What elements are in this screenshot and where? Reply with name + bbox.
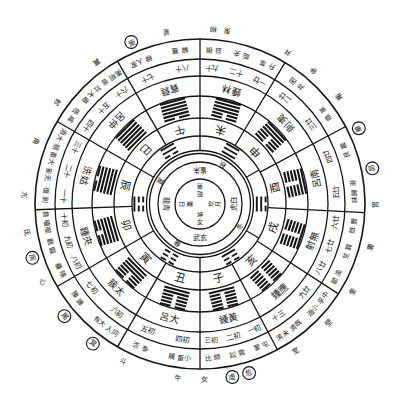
morning-hexagram-name: 小畜 — [177, 353, 192, 363]
lunar-mansion-label: 房 — [28, 253, 39, 262]
pitch-pipe-label: 夷則 — [275, 112, 297, 134]
sector-divider — [268, 208, 365, 213]
earthly-branch-label: 戌 — [265, 221, 281, 235]
lunar-day-label: 廿一 — [250, 74, 267, 89]
lunar-mansion-label: 柳 — [209, 24, 217, 33]
broken-yin-line — [257, 130, 266, 139]
evening-hexagram-name: 訟 — [228, 350, 237, 360]
lunar-mansion-label: 觜 — [334, 92, 345, 103]
lunar-day-label: 初二 — [225, 330, 241, 342]
broken-yin-line — [232, 252, 238, 257]
morning-hexagram-name: 革 — [317, 104, 328, 115]
fu-hexagram-icon — [209, 286, 239, 311]
broken-yin-line — [257, 278, 266, 287]
pitch-pipe-label: 南呂 — [308, 168, 323, 190]
lunar-mansion-label: 胃 — [372, 201, 380, 208]
solid-yang-line — [256, 197, 258, 212]
solid-yang-line — [262, 126, 281, 146]
broken-yin-line — [142, 197, 144, 203]
lunar-mansion-label: 翼 — [91, 56, 101, 67]
guai-hexagram-icon — [93, 165, 118, 195]
lunar-day-label: 廿六 — [330, 214, 341, 230]
inner-trigram-ring — [133, 143, 266, 266]
lunar-day-label: 廿七 — [323, 237, 336, 254]
sector-divider — [260, 127, 346, 173]
lunar-day-label: 初四 — [175, 334, 190, 345]
season-label: 夏 — [155, 176, 165, 186]
morning-hexagram-name: 萃 — [258, 57, 268, 68]
earthly-branch-label: 酉 — [268, 181, 283, 195]
broken-yin-line — [290, 170, 294, 181]
pitch-pipe-label: 大呂 — [158, 310, 180, 326]
center-trigram-labels: 乾男坎月坤女離日 — [178, 182, 222, 226]
broken-yin-line — [296, 184, 300, 195]
lunar-mansion-label: 奎 — [347, 286, 358, 297]
morning-hexagram-name: 隨 — [57, 269, 68, 279]
lunar-mansion-label: 角 — [31, 136, 42, 146]
broken-yin-line — [224, 257, 230, 262]
broken-yin-line — [138, 206, 140, 212]
broken-yin-line — [286, 171, 290, 182]
lunar-mansion-label: 星 — [162, 27, 170, 36]
lunar-mansion-label: 尾 — [59, 311, 70, 321]
lunar-day-label: 初一 — [246, 322, 262, 336]
lunar-day-label: 初十 — [59, 212, 70, 227]
four-symbol-label: 青龍 — [162, 197, 171, 211]
evening-hexagram-name: 大畜 — [46, 151, 59, 167]
morning-hexagram-name: 損 — [205, 45, 213, 54]
evening-hexagram-name: 復 — [41, 186, 51, 194]
lunar-day-label: 十七 — [139, 71, 156, 85]
earthly-branch-label: 丑 — [173, 271, 187, 286]
earthly-branch-label: 午 — [173, 122, 187, 137]
broken-yin-line — [250, 270, 259, 279]
pitch-pipe-label: 仲呂 — [106, 110, 128, 132]
morning-hexagram-name: 巽 — [344, 243, 354, 252]
lunar-mansion-label: 昴 — [368, 164, 377, 172]
morning-hexagram-name: 需 — [238, 348, 247, 358]
solid-yang-line — [133, 197, 135, 212]
morning-hexagram-name: 屯 — [260, 338, 270, 349]
evening-hexagram-name: 蒙 — [252, 342, 262, 353]
morning-hexagram-name: 渙 — [333, 267, 344, 277]
evening-hexagram-name: 姤 — [241, 51, 250, 62]
pitch-pipe-label: 黃鍾 — [218, 311, 240, 327]
lunar-mansion-label: 心 — [37, 277, 47, 287]
four-symbol-label: 朱雀 — [193, 166, 207, 175]
lunar-mansion-label: 鬼 — [223, 26, 231, 36]
lunar-mansion-label: 畢 — [354, 123, 364, 133]
lunar-mansion-label: 壁 — [323, 317, 334, 328]
broken-yin-line — [270, 139, 279, 148]
four-symbol-label: 玄武 — [193, 233, 207, 242]
evening-hexagram-name: 比 — [204, 354, 211, 363]
evening-hexagram-name: 睽 — [144, 53, 153, 63]
broken-yin-line — [265, 144, 274, 153]
broken-yin-line — [265, 197, 267, 203]
center-meaning-label: 日 — [178, 201, 186, 207]
lunar-mansion-label: 氐 — [22, 228, 32, 236]
broken-yin-line — [283, 172, 287, 183]
lunar-mansion-label: 牛 — [173, 373, 181, 383]
broken-yin-line — [162, 252, 168, 257]
earthly-branch-label: 辰 — [118, 178, 133, 192]
sector-dividers — [35, 39, 365, 369]
lunar-mansion-label: 亢 — [20, 190, 29, 197]
sector-divider — [141, 170, 154, 177]
evening-hexagram-name: 歸妹 — [349, 189, 359, 203]
lunar-day-label: 廿四 — [321, 148, 335, 165]
evening-hexagram-name: 觀 — [45, 238, 55, 247]
morning-hexagram-name: 咸 — [65, 114, 76, 125]
evening-hexagram-name: 解 — [181, 45, 189, 55]
evening-hexagram-name: 賁 — [41, 210, 50, 218]
lunar-mansion-label: 危 — [244, 367, 253, 378]
lunar-mansion-label: 張 — [126, 37, 136, 47]
lunar-mansion-label: 參 — [308, 65, 319, 76]
pitch-pipe-label: 姑洗 — [78, 164, 94, 186]
evening-hexagram-name: 大過 — [54, 127, 68, 144]
evening-hexagram-name: 否 — [132, 340, 142, 350]
evening-hexagram-name: 艮 — [342, 150, 352, 159]
ring-circle — [132, 136, 268, 272]
lunar-mansion-label: 室 — [290, 345, 301, 356]
lunar-day-label: 二十 — [229, 66, 245, 78]
earthly-branch-label: 未 — [214, 122, 228, 137]
morning-hexagram-name: 无妄 — [43, 167, 55, 182]
